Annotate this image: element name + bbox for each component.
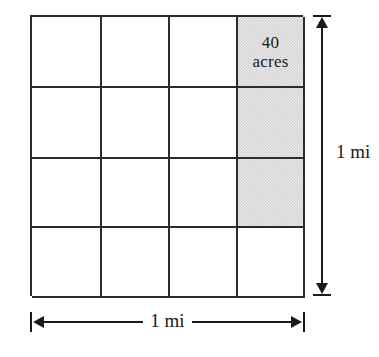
parcel-cell	[102, 17, 170, 88]
parcel-cell	[238, 228, 305, 298]
parcel-cell	[170, 17, 238, 88]
parcel-cell	[32, 17, 102, 88]
horizontal-dimension-label: 1 mi	[143, 310, 191, 332]
vertical-dimension-label: 1 mi	[336, 141, 370, 163]
horizontal-dimension-right-cap	[303, 312, 305, 332]
parcel-grid: 40 acres	[30, 15, 303, 296]
parcel-cell	[102, 228, 170, 298]
vertical-dimension-arrow	[312, 15, 332, 296]
horizontal-dimension-arrow: 1 mi	[30, 310, 305, 334]
parcel-cell	[32, 88, 102, 159]
parcel-area-label: 40 acres	[238, 33, 303, 71]
parcel-cell	[102, 159, 170, 228]
parcel-cell	[170, 228, 238, 298]
vertical-dimension-shaft	[321, 19, 323, 292]
arrow-head-down-icon	[316, 283, 328, 294]
parcel-cell	[238, 159, 305, 228]
parcel-cell	[170, 159, 238, 228]
horizontal-dimension-shaft-left	[44, 321, 143, 323]
parcel-cell	[170, 88, 238, 159]
vertical-dimension-bottom-cap	[313, 294, 331, 296]
parcel-cell: 40 acres	[238, 17, 305, 88]
section-grid-figure: 40 acres 1 mi 1 mi	[0, 0, 379, 357]
parcel-cell	[32, 159, 102, 228]
arrow-head-right-icon	[291, 316, 302, 328]
arrow-head-left-icon	[33, 316, 44, 328]
arrow-head-up-icon	[316, 17, 328, 28]
horizontal-dimension-shaft-right	[192, 321, 291, 323]
parcel-cell	[102, 88, 170, 159]
horizontal-dimension-left-cap	[30, 312, 32, 332]
parcel-cell	[238, 88, 305, 159]
parcel-cell	[32, 228, 102, 298]
